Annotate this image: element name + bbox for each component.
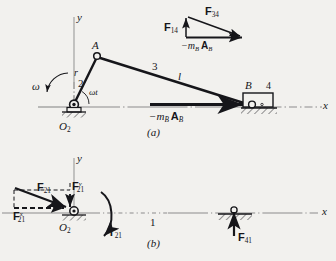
joint-b-pin: [249, 101, 256, 108]
f21-label: F21: [37, 182, 51, 195]
angle-arc-wt: [82, 92, 89, 105]
f41-label: F41: [238, 232, 252, 245]
pivot-o2-base: [67, 108, 81, 113]
x-axis-label-b: x: [322, 206, 327, 217]
f34-label: F34: [205, 6, 219, 19]
ground-hatch-o2-b: [62, 215, 86, 221]
joint-a-label: A: [92, 40, 99, 51]
slider-number-label: 4: [266, 81, 271, 91]
omega-arrow: [47, 73, 68, 92]
caption-a: (a): [147, 127, 160, 138]
figure-vector-layer: [0, 0, 336, 261]
omega-label: ω: [32, 81, 40, 92]
f34-vector: [188, 17, 240, 36]
x-axis-label-a: x: [323, 100, 328, 111]
ground-hatch-slider: [241, 108, 277, 114]
slider-block-4: [243, 93, 273, 107]
coupler-link-3: [97, 57, 247, 104]
ground-hatch-o2: [62, 112, 86, 118]
diagram-b-group: [2, 158, 318, 236]
coupler-length-label: l: [178, 71, 181, 82]
crank-number-label: 2: [78, 78, 84, 89]
torque-label: T21: [108, 227, 122, 240]
omega-t-label: ωt: [89, 88, 98, 97]
diagram-a-group: [38, 17, 322, 118]
inertia-force-label-a: −mBAB: [149, 111, 183, 124]
caption-b: (b): [147, 238, 160, 249]
mechanism-figure: y x A B 4 r 2 3 l ω ωt O2 −mBAB F14 F34 …: [0, 0, 336, 261]
coupler-number-label: 3: [152, 61, 158, 72]
triangle-base-label: −mBAB: [181, 41, 212, 52]
joint-b-label: B: [245, 80, 252, 91]
f21x-label: Fx21: [13, 211, 25, 224]
f21y-label: Fy21: [72, 181, 84, 194]
f14-label: F14: [164, 22, 178, 35]
pivot-o2-inner: [72, 103, 75, 106]
pivot-o2-label-b: O2: [59, 222, 71, 235]
y-axis-label-a: y: [77, 12, 82, 23]
ground-link-number-label: 1: [150, 217, 156, 228]
joint-a-pin: [94, 53, 101, 60]
y-axis-label-b: y: [77, 153, 82, 164]
pivot-o2-label-a: O2: [59, 121, 71, 134]
force-triangle-group: [186, 17, 242, 38]
pivot-o2-b-inner: [72, 209, 75, 212]
